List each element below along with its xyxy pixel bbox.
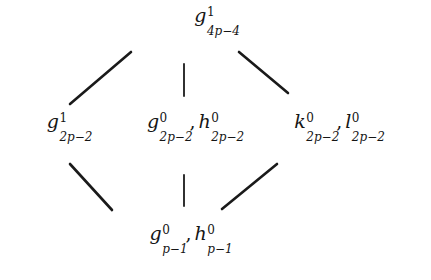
atom-superscript: 1 xyxy=(207,6,215,18)
atom-superscript: 1 xyxy=(59,112,67,124)
atom-subscript: 2p−2 xyxy=(211,131,244,143)
atom-subscript: 2p−2 xyxy=(306,131,339,143)
node-top-label: g14p−4 xyxy=(194,4,237,26)
term-separator: , xyxy=(189,110,198,132)
math-atom: h0p−1 xyxy=(194,224,206,243)
node-mid-right-label: k02p−2,l02p−2 xyxy=(294,110,381,132)
atom-base: g xyxy=(47,110,59,132)
atom-subscript: 2p−2 xyxy=(352,131,385,143)
atom-superscript: 0 xyxy=(211,112,219,124)
edge-bottom-left xyxy=(70,164,112,210)
math-atom: g14p−4 xyxy=(194,6,206,25)
node-top: g14p−4 xyxy=(0,6,431,25)
atom-subscript: 2p−2 xyxy=(160,131,193,143)
atom-subscript: 4p−4 xyxy=(207,25,240,37)
atom-subscript: 2p−2 xyxy=(59,131,92,143)
atom-superscript: 0 xyxy=(160,112,168,124)
atom-base: l xyxy=(345,110,351,132)
atom-subscript: p−1 xyxy=(207,243,232,255)
atom-superscript: 0 xyxy=(352,112,360,124)
atom-base: g xyxy=(147,110,159,132)
atom-base: k xyxy=(294,110,306,132)
edge-top-right xyxy=(239,52,288,93)
diagram-canvas: g14p−4 g12p−2 g02p−2,h02p−2 k02p−2,l02p−… xyxy=(0,0,431,280)
atom-base: g xyxy=(149,222,161,244)
math-atom: g02p−2 xyxy=(147,112,159,131)
node-mid-center-label: g02p−2,h02p−2 xyxy=(147,110,241,132)
math-atom: l02p−2 xyxy=(345,112,351,131)
math-atom: g0p−1 xyxy=(149,224,161,243)
math-atom: g12p−2 xyxy=(47,112,59,131)
edge-bottom-right xyxy=(222,164,277,209)
node-bottom-label: g0p−1,h0p−1 xyxy=(149,222,230,244)
atom-base: h xyxy=(198,110,210,132)
node-bottom: g0p−1,h0p−1 xyxy=(90,224,290,243)
node-mid-center: g02p−2,h02p−2 xyxy=(120,112,268,131)
math-atom: h02p−2 xyxy=(198,112,210,131)
edge-top-left xyxy=(70,52,131,104)
node-mid-right: k02p−2,l02p−2 xyxy=(258,112,418,131)
atom-superscript: 0 xyxy=(162,224,170,236)
term-separator: , xyxy=(185,222,194,244)
math-atom: k02p−2 xyxy=(294,112,306,131)
atom-subscript: p−1 xyxy=(162,243,187,255)
atom-superscript: 0 xyxy=(306,112,314,124)
atom-base: g xyxy=(194,4,206,26)
node-mid-left: g12p−2 xyxy=(8,112,128,131)
node-mid-left-label: g12p−2 xyxy=(47,110,90,132)
term-separator: , xyxy=(336,110,345,132)
atom-base: h xyxy=(194,222,206,244)
atom-superscript: 0 xyxy=(207,224,215,236)
